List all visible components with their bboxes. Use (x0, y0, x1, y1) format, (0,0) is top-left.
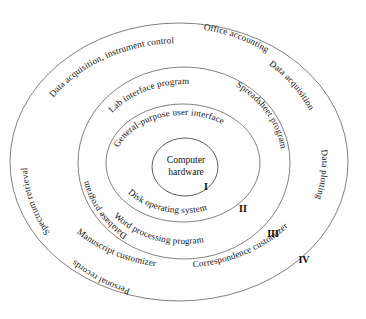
center-label-line2: hardware (168, 166, 204, 177)
concentric-layers-diagram: Data acquisition, instrument control Off… (0, 0, 366, 319)
label-outer-left-upper: Spectrum retrieval (19, 167, 51, 237)
layers-svg: Data acquisition, instrument control Off… (0, 0, 366, 319)
label-outer-left-lower: Personal records (70, 258, 131, 297)
label-ring3-bottom: Word processing program (112, 210, 204, 246)
center-label-line1: Computer (167, 154, 206, 165)
numeral-ii: II (239, 203, 247, 214)
label-ring2-top: General-purpose user interface (111, 107, 226, 149)
label-outer-right-upper: Office accounting (203, 22, 271, 55)
numeral-i: I (204, 181, 208, 192)
numeral-iv: IV (298, 254, 310, 265)
label-ring3-top: Lab interface program (107, 76, 190, 114)
label-ring3-right: Spreadsheet program (235, 79, 289, 149)
label-outer-right-mid: Data acquisition (268, 58, 317, 112)
label-outer-right-lower: Data plotting (314, 149, 330, 201)
numeral-iii: III (267, 228, 279, 239)
